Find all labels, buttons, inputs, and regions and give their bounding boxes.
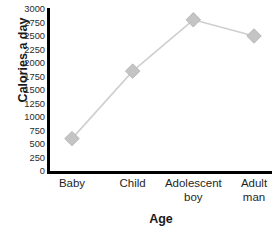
x-axis-tick-label-line: Child xyxy=(120,177,146,189)
y-axis-tick-label: 2750 xyxy=(16,18,45,27)
x-axis-tick-labels: BabyChildAdolescentboyAdultman xyxy=(50,177,272,209)
calories-by-age-line-chart: Calories a day 3000275025002250200017501… xyxy=(0,0,277,233)
y-axis-tick-label: 250 xyxy=(16,153,45,162)
y-axis-tick-label: 1500 xyxy=(16,86,45,95)
x-axis-tick-label: Adolescentboy xyxy=(165,177,222,204)
y-axis-tick-label: 3000 xyxy=(16,5,45,14)
y-axis-tick-label: 2500 xyxy=(16,32,45,41)
x-axis-line xyxy=(47,171,272,174)
x-axis-title: Age xyxy=(50,212,272,226)
y-axis-tick-label: 2000 xyxy=(16,59,45,68)
y-axis-tick-label: 1750 xyxy=(16,72,45,81)
x-axis-tick-label-line: Adolescent xyxy=(165,177,222,189)
data-point-marker xyxy=(247,29,261,43)
y-axis-tick-label: 1250 xyxy=(16,99,45,108)
x-axis-tick-label-line: man xyxy=(241,191,267,205)
data-series-svg xyxy=(50,9,272,171)
y-axis-tick-label: 0 xyxy=(16,167,45,176)
y-axis-tick-label: 1000 xyxy=(16,113,45,122)
y-axis-tick-labels: 3000275025002250200017501500125010007505… xyxy=(16,9,45,172)
y-axis-tick-label: 500 xyxy=(16,140,45,149)
x-axis-tick-label: Child xyxy=(120,177,146,191)
plot-area xyxy=(50,9,272,171)
x-axis-tick-label: Baby xyxy=(59,177,85,191)
y-axis-tick-label: 2250 xyxy=(16,45,45,54)
x-axis-tick-label-line: boy xyxy=(165,191,222,205)
y-axis-tick-label: 750 xyxy=(16,126,45,135)
x-axis-tick-label-line: Adult xyxy=(241,177,267,189)
x-axis-tick-label-line: Baby xyxy=(59,177,85,189)
series-line xyxy=(72,20,254,139)
x-axis-tick-label: Adultman xyxy=(241,177,267,204)
